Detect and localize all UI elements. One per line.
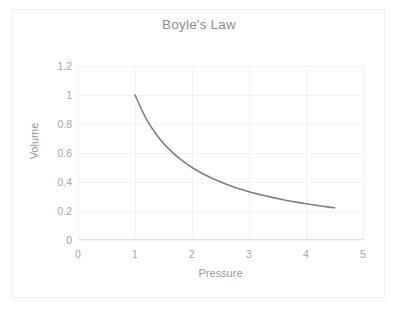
y-axis-tick-label: 0.2	[38, 206, 72, 216]
y-axis-tick-label: 1.2	[38, 61, 72, 71]
y-axis-tick-label: 0	[38, 235, 72, 245]
gridline-horizontal	[78, 240, 363, 241]
plot-area	[78, 66, 363, 240]
x-axis-tick-labels: 012345	[0, 248, 398, 262]
x-axis-tick-label: 1	[115, 248, 155, 260]
gridline-vertical	[363, 66, 364, 240]
y-axis-title: Volume	[28, 101, 40, 181]
y-axis-tick-label: 0.6	[38, 148, 72, 158]
y-axis-tick-label: 1	[38, 90, 72, 100]
x-axis-tick-label: 3	[229, 248, 269, 260]
y-axis-tick-labels: 00.20.40.60.811.2	[38, 0, 72, 316]
x-axis-title: Pressure	[78, 267, 363, 279]
line-series-volume	[78, 66, 363, 240]
x-axis-tick-label: 0	[58, 248, 98, 260]
y-axis-tick-label: 0.8	[38, 119, 72, 129]
line-path	[135, 95, 335, 208]
x-axis-tick-label: 4	[286, 248, 326, 260]
x-axis-tick-label: 2	[172, 248, 212, 260]
y-axis-tick-label: 0.4	[38, 177, 72, 187]
x-axis-tick-label: 5	[343, 248, 383, 260]
